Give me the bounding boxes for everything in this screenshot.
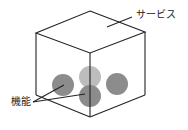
service-function-cube-diagram: サービス 機能: [0, 0, 188, 130]
function-label: 機能: [11, 97, 31, 107]
service-label: サービス: [136, 10, 176, 20]
function-circle-right: [106, 73, 128, 95]
